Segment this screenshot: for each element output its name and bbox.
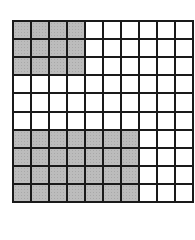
unshaded-cell xyxy=(50,94,66,110)
shaded-cell xyxy=(68,149,84,165)
shaded-cell xyxy=(32,40,48,56)
shaded-cell xyxy=(68,40,84,56)
shaded-cell xyxy=(32,131,48,147)
unshaded-cell xyxy=(158,94,174,110)
shaded-cell xyxy=(122,131,138,147)
shaded-cell xyxy=(68,131,84,147)
unshaded-cell xyxy=(158,131,174,147)
shaded-cell xyxy=(32,58,48,74)
unshaded-cell xyxy=(140,113,156,129)
unshaded-cell xyxy=(86,22,102,38)
unshaded-cell xyxy=(122,40,138,56)
shaded-cell xyxy=(68,22,84,38)
unshaded-cell xyxy=(86,113,102,129)
shaded-cell xyxy=(86,131,102,147)
shaded-cell xyxy=(68,167,84,183)
unshaded-cell xyxy=(140,149,156,165)
shaded-cell xyxy=(14,58,30,74)
unshaded-cell xyxy=(158,113,174,129)
unshaded-cell xyxy=(140,185,156,201)
shaded-cell xyxy=(14,185,30,201)
unshaded-cell xyxy=(140,131,156,147)
shaded-cell xyxy=(86,185,102,201)
unshaded-cell xyxy=(176,167,192,183)
unshaded-cell xyxy=(86,76,102,92)
unshaded-cell xyxy=(32,113,48,129)
shaded-cell xyxy=(32,22,48,38)
shaded-cell xyxy=(14,40,30,56)
unshaded-cell xyxy=(104,22,120,38)
unshaded-cell xyxy=(104,113,120,129)
hundred-grid xyxy=(12,20,194,203)
unshaded-cell xyxy=(158,40,174,56)
shaded-cell xyxy=(86,149,102,165)
shaded-cell xyxy=(122,185,138,201)
unshaded-cell xyxy=(86,40,102,56)
unshaded-cell xyxy=(158,149,174,165)
shaded-cell xyxy=(14,149,30,165)
unshaded-cell xyxy=(86,94,102,110)
shaded-cell xyxy=(104,185,120,201)
unshaded-cell xyxy=(176,76,192,92)
unshaded-cell xyxy=(50,76,66,92)
unshaded-cell xyxy=(176,149,192,165)
unshaded-cell xyxy=(176,58,192,74)
shaded-cell xyxy=(14,167,30,183)
unshaded-cell xyxy=(176,40,192,56)
unshaded-cell xyxy=(122,113,138,129)
shaded-cell xyxy=(104,131,120,147)
shaded-cell xyxy=(32,185,48,201)
unshaded-cell xyxy=(68,94,84,110)
unshaded-cell xyxy=(158,167,174,183)
unshaded-cell xyxy=(104,76,120,92)
shaded-cell xyxy=(50,40,66,56)
shaded-cell xyxy=(68,58,84,74)
unshaded-cell xyxy=(14,94,30,110)
unshaded-cell xyxy=(176,94,192,110)
unshaded-cell xyxy=(140,167,156,183)
unshaded-cell xyxy=(68,113,84,129)
unshaded-cell xyxy=(140,40,156,56)
unshaded-cell xyxy=(140,58,156,74)
shaded-cell xyxy=(14,22,30,38)
unshaded-cell xyxy=(122,22,138,38)
unshaded-cell xyxy=(14,76,30,92)
shaded-cell xyxy=(50,185,66,201)
shaded-cell xyxy=(50,131,66,147)
unshaded-cell xyxy=(32,94,48,110)
unshaded-cell xyxy=(14,113,30,129)
shaded-cell xyxy=(122,149,138,165)
unshaded-cell xyxy=(140,76,156,92)
unshaded-cell xyxy=(104,40,120,56)
unshaded-cell xyxy=(158,76,174,92)
unshaded-cell xyxy=(122,76,138,92)
unshaded-cell xyxy=(122,58,138,74)
shaded-cell xyxy=(32,167,48,183)
unshaded-cell xyxy=(122,94,138,110)
unshaded-cell xyxy=(158,58,174,74)
unshaded-cell xyxy=(32,76,48,92)
unshaded-cell xyxy=(86,58,102,74)
shaded-cell xyxy=(50,167,66,183)
shaded-cell xyxy=(14,131,30,147)
unshaded-cell xyxy=(176,131,192,147)
shaded-cell xyxy=(50,22,66,38)
shaded-cell xyxy=(86,167,102,183)
unshaded-cell xyxy=(140,22,156,38)
unshaded-cell xyxy=(158,22,174,38)
shaded-cell xyxy=(122,167,138,183)
unshaded-cell xyxy=(176,22,192,38)
unshaded-cell xyxy=(140,94,156,110)
unshaded-cell xyxy=(104,58,120,74)
unshaded-cell xyxy=(68,76,84,92)
shaded-cell xyxy=(68,185,84,201)
shaded-cell xyxy=(104,149,120,165)
shaded-cell xyxy=(32,149,48,165)
unshaded-cell xyxy=(176,185,192,201)
unshaded-cell xyxy=(50,113,66,129)
unshaded-cell xyxy=(104,94,120,110)
shaded-cell xyxy=(50,58,66,74)
shaded-cell xyxy=(50,149,66,165)
shaded-cell xyxy=(104,167,120,183)
unshaded-cell xyxy=(176,113,192,129)
